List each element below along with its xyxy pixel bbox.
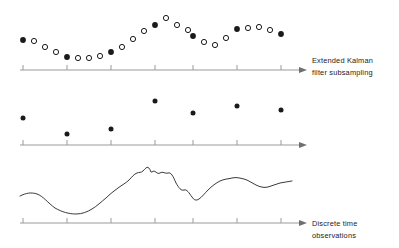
panel-label-extended-kalman: Extended Kalman filter subsampling: [312, 55, 373, 78]
panel-label-line1: Extended Kalman: [312, 55, 373, 67]
data-point-filled: [20, 37, 26, 43]
plot-continuous-time-evolution: [0, 162, 399, 248]
data-point-filled: [64, 54, 70, 60]
data-point-filled: [152, 22, 158, 28]
data-point-filled: [278, 31, 284, 37]
data-point-open: [212, 42, 217, 47]
data-point-open: [75, 55, 80, 60]
panel-discrete-time-observations: Discrete time observations: [0, 88, 399, 162]
data-point-open: [256, 24, 261, 29]
axis-ticks: [23, 140, 281, 145]
panel-extended-kalman-filter-subsampling: Extended Kalman filter subsampling: [0, 0, 399, 88]
data-point-filled: [279, 108, 284, 113]
state-trajectory-curve: [20, 167, 292, 214]
data-point-filled: [235, 104, 240, 109]
data-point-open: [97, 53, 102, 58]
data-point-open: [130, 36, 135, 41]
axis-ticks: [23, 218, 281, 223]
data-point-open: [141, 28, 146, 33]
panel-label-line2: filter subsampling: [312, 67, 373, 79]
series-observations: [21, 99, 284, 137]
figure-root: Extended Kalman filter subsampling Discr…: [0, 0, 399, 248]
data-point-filled: [109, 127, 114, 132]
axis-arrowhead: [299, 142, 307, 148]
data-point-open: [119, 44, 124, 49]
data-point-filled: [191, 111, 196, 116]
axis-top: [20, 65, 307, 73]
data-point-filled: [234, 26, 240, 32]
data-point-open: [42, 44, 47, 49]
data-point-filled: [21, 116, 26, 121]
data-point-open: [185, 27, 190, 32]
series-filter-estimates: [31, 15, 272, 60]
data-point-open: [53, 49, 58, 54]
plot-discrete-time-observations: [0, 88, 399, 162]
axis-arrowhead: [299, 67, 307, 73]
axis-bot: [20, 218, 307, 226]
axis-ticks: [23, 65, 281, 70]
data-point-open: [201, 39, 206, 44]
data-point-filled: [65, 132, 70, 137]
data-point-open: [31, 38, 36, 43]
axis-arrowhead: [299, 220, 307, 226]
panel-continuous-time-evolution: Continuous-time evolution of states: [0, 162, 399, 248]
data-point-open: [223, 35, 228, 40]
data-point-open: [163, 15, 168, 20]
data-point-filled: [190, 33, 196, 39]
data-point-open: [174, 22, 179, 27]
axis-mid: [20, 140, 307, 148]
data-point-filled: [153, 99, 158, 104]
data-point-filled: [108, 49, 114, 55]
data-point-open: [245, 25, 250, 30]
data-point-open: [267, 27, 272, 32]
series-observations: [20, 22, 284, 60]
data-point-open: [86, 55, 91, 60]
